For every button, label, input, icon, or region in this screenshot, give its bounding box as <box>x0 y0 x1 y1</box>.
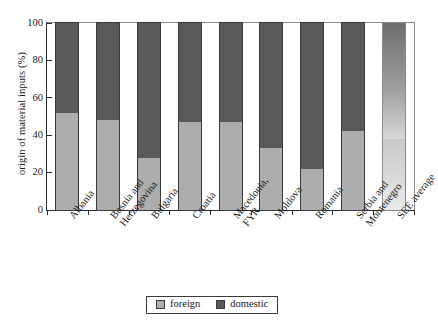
bar-segment-domestic <box>138 23 160 158</box>
bar-segment-foreign <box>220 122 242 210</box>
bar-segment-foreign <box>97 120 119 210</box>
stacked-bar[interactable] <box>179 23 201 210</box>
y-axis-title: origin of material inputs (%) <box>16 19 27 209</box>
chart-legend: foreigndomestic <box>146 296 278 314</box>
y-axis-tick-mark <box>47 135 52 136</box>
bar-segment-domestic <box>97 23 119 120</box>
bar-slot <box>210 23 251 210</box>
bar-slot <box>332 23 373 210</box>
bar-segment-domestic <box>260 23 282 148</box>
bar-segment-foreign <box>56 113 78 210</box>
bar-segment-domestic <box>179 23 201 122</box>
legend-item[interactable]: domestic <box>216 299 268 310</box>
y-axis-tick-label: 80 <box>33 55 48 66</box>
y-axis-tick-label: 60 <box>33 93 48 104</box>
bar-slot <box>88 23 129 210</box>
stacked-bar[interactable] <box>56 23 78 210</box>
y-axis-tick-mark <box>47 172 52 173</box>
bar-slot <box>169 23 210 210</box>
y-axis-tick-label: 20 <box>33 167 48 178</box>
legend-label: foreign <box>170 299 200 310</box>
legend-swatch-domestic <box>216 300 225 309</box>
bar-segment-foreign <box>179 122 201 210</box>
y-axis-tick-label: 40 <box>33 130 48 141</box>
y-axis-tick-mark <box>47 23 52 24</box>
bar-segment-domestic <box>301 23 323 169</box>
stacked-bar[interactable] <box>97 23 119 210</box>
y-axis-tick-label: 100 <box>27 18 47 29</box>
legend-swatch-foreign <box>156 300 165 309</box>
bar-segment-domestic <box>383 23 405 139</box>
stacked-bar[interactable] <box>301 23 323 210</box>
bar-slot <box>47 23 88 210</box>
stacked-bar[interactable] <box>220 23 242 210</box>
stacked-bar[interactable] <box>342 23 364 210</box>
plot-area: 020406080100 <box>46 22 415 211</box>
bar-slot <box>292 23 333 210</box>
bar-segment-domestic <box>56 23 78 113</box>
legend-item[interactable]: foreign <box>156 299 200 310</box>
legend-label: domestic <box>230 299 268 310</box>
bar-segment-domestic <box>342 23 364 131</box>
bar-series-container <box>47 23 414 210</box>
y-axis-tick-mark <box>47 60 52 61</box>
bar-segment-domestic <box>220 23 242 122</box>
x-axis-labels: AlbaniaBosnia andHerzegovinaBulgariaCroa… <box>46 214 415 288</box>
bar-segment-foreign <box>342 131 364 210</box>
y-axis-tick-mark <box>47 97 52 98</box>
